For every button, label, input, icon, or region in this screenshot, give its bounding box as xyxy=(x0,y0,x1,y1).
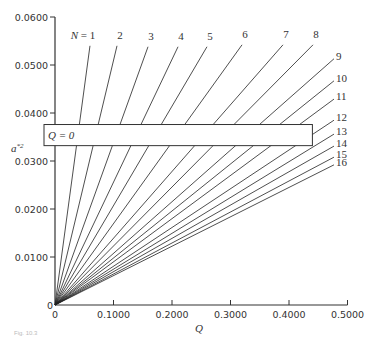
series-line xyxy=(55,46,90,305)
y-tick-label: 0.0300 xyxy=(15,156,48,167)
x-tick-label: 0 xyxy=(52,309,58,320)
series-label: 4 xyxy=(178,30,184,42)
figure-caption: Fig. 10.3 xyxy=(14,330,37,336)
x-tick-label: 0.5000 xyxy=(331,309,364,320)
y-tick-label: 0.0500 xyxy=(15,60,48,71)
series-line xyxy=(55,45,283,305)
x-tick-label: 0.4000 xyxy=(272,309,305,320)
series-label: 5 xyxy=(207,30,213,42)
series-label: 11 xyxy=(336,90,347,102)
x-tick-label: 0.3000 xyxy=(214,309,247,320)
axes: 00.01000.02000.03000.04000.05000.060000.… xyxy=(15,12,364,321)
series-label: 6 xyxy=(242,28,248,40)
series-line xyxy=(55,157,334,305)
y-tick-label: 0.0600 xyxy=(15,12,48,23)
series-line xyxy=(55,120,334,305)
y-tick-label: 0.0200 xyxy=(15,204,48,215)
series-labels: N = 12345678910111213141516 xyxy=(70,28,348,168)
y-tick-label: 0.0400 xyxy=(15,108,48,119)
y-axis-label-sup: *2 xyxy=(17,142,25,150)
q-zero-box xyxy=(44,125,312,146)
series-label: 8 xyxy=(313,28,319,40)
series-lines xyxy=(55,45,334,305)
y-tick-label: 0.0100 xyxy=(15,252,48,263)
series-line xyxy=(55,134,334,305)
series-line xyxy=(55,45,242,305)
chart: 00.01000.02000.03000.04000.05000.060000.… xyxy=(0,0,370,345)
series-line xyxy=(55,146,334,305)
series-line xyxy=(55,59,334,305)
series-label: 9 xyxy=(336,50,342,62)
series-line xyxy=(55,47,207,305)
series-line xyxy=(55,47,148,305)
series-label: 16 xyxy=(336,156,348,168)
series-label: 12 xyxy=(336,111,347,123)
x-tick-label: 0.2000 xyxy=(155,309,188,320)
series-label: 2 xyxy=(117,29,123,41)
series-label: 7 xyxy=(283,28,289,40)
x-tick-label: 0.1000 xyxy=(97,309,130,320)
series-line xyxy=(55,45,313,305)
series-line xyxy=(55,165,334,305)
series-line xyxy=(55,81,334,305)
x-axis-label: Q xyxy=(195,322,203,334)
y-axis-label: a*2 xyxy=(11,142,24,154)
series-label: 13 xyxy=(336,125,348,137)
q-zero-label: Q = 0 xyxy=(48,129,75,141)
series-line xyxy=(55,47,178,305)
series-label: N = 1 xyxy=(70,29,96,41)
series-label: 3 xyxy=(148,30,154,42)
series-label: 10 xyxy=(336,72,348,84)
